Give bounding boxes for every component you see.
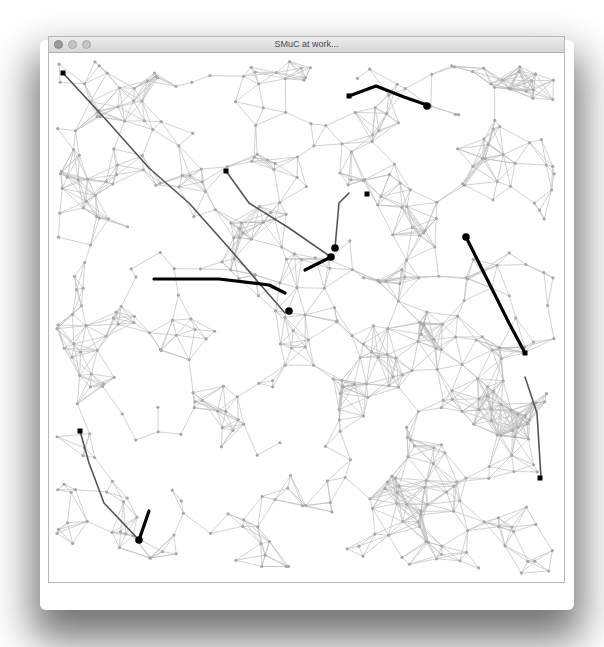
window-title: SMuC at work... [49, 38, 564, 51]
graph-canvas[interactable] [49, 53, 564, 582]
network-graph [49, 53, 564, 582]
title-bar[interactable]: SMuC at work... [49, 37, 564, 53]
app-window: SMuC at work... [48, 36, 565, 583]
